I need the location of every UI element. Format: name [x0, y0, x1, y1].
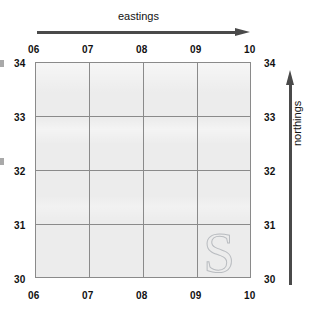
page-bleed-mark-top	[0, 60, 4, 67]
northings-arrow-head	[286, 70, 294, 85]
watermark-letter-s: S	[197, 229, 241, 277]
tick-bottom-4: 10	[244, 291, 255, 301]
tick-top-1: 07	[82, 45, 93, 55]
tick-left-1: 33	[14, 113, 25, 123]
tick-bottom-1: 07	[82, 291, 93, 301]
eastings-arrow-head	[235, 28, 250, 36]
tick-right-2: 32	[264, 167, 275, 177]
tick-left-0: 34	[14, 59, 25, 69]
tick-right-3: 31	[264, 221, 275, 231]
tick-right-1: 33	[264, 113, 275, 123]
tick-top-3: 09	[190, 45, 201, 55]
tick-top-2: 08	[136, 45, 147, 55]
watermark-s-glyph: S	[197, 229, 241, 277]
eastings-arrow-shaft	[37, 31, 237, 34]
northings-axis-title: northings	[292, 101, 303, 146]
tick-bottom-0: 06	[28, 291, 39, 301]
tick-bottom-2: 08	[136, 291, 147, 301]
grid-hline-33	[36, 116, 250, 117]
eastings-axis-title: eastings	[118, 11, 159, 22]
tick-top-0: 06	[28, 45, 39, 55]
grid-hline-32	[36, 170, 250, 171]
tick-left-3: 31	[14, 221, 25, 231]
tick-right-0: 34	[264, 59, 275, 69]
tick-bottom-3: 09	[190, 291, 201, 301]
eastings-arrow-icon	[37, 28, 250, 37]
tick-top-4: 10	[244, 45, 255, 55]
page-bleed-mark-middle	[0, 158, 4, 165]
tick-left-2: 32	[14, 167, 25, 177]
tick-right-4: 30	[264, 275, 275, 285]
tick-left-4: 30	[14, 275, 25, 285]
